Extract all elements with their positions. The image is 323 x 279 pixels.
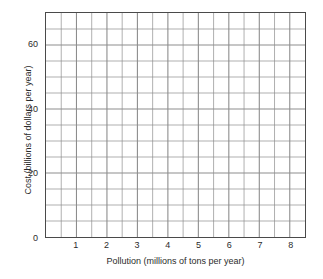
x-tick-label: 7 <box>257 240 262 250</box>
x-tick-label: 5 <box>196 240 201 250</box>
chart-figure: 12345678 0204060 Pollution (millions of … <box>0 0 323 279</box>
x-tick-label: 8 <box>288 240 293 250</box>
x-tick-label: 3 <box>135 240 140 250</box>
grid-lines <box>46 13 305 237</box>
x-tick-label: 2 <box>104 240 109 250</box>
x-tick-label: 1 <box>73 240 78 250</box>
x-tick-label: 6 <box>227 240 232 250</box>
y-tick-label: 0 <box>16 233 38 243</box>
y-axis-title: Cost (billions of dollars per year) <box>23 50 33 210</box>
x-tick-label: 4 <box>165 240 170 250</box>
plot-area <box>45 12 306 238</box>
x-axis-title: Pollution (millions of tons per year) <box>45 256 306 266</box>
y-tick-label: 60 <box>16 39 38 49</box>
